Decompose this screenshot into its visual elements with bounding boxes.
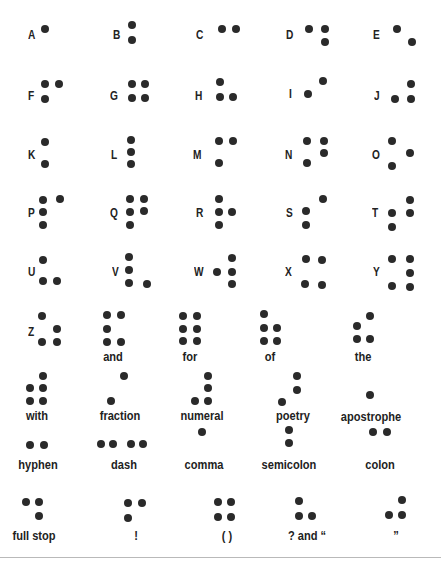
braille-label: M — [193, 148, 201, 162]
braille-dot-icon — [215, 137, 223, 145]
braille-dot-icon — [366, 391, 374, 399]
braille-label: H — [195, 89, 202, 103]
bottom-divider — [0, 557, 441, 558]
braille-label: comma — [185, 457, 224, 472]
braille-dot-icon — [229, 93, 237, 101]
braille-dot-icon — [228, 254, 236, 262]
braille-dot-icon — [127, 148, 135, 156]
braille-dot-icon — [215, 195, 223, 203]
braille-label: B — [113, 28, 120, 42]
braille-dot-icon — [303, 159, 311, 167]
braille-dot-icon — [393, 25, 401, 33]
braille-dot-icon — [53, 277, 61, 285]
braille-dot-icon — [40, 441, 48, 449]
braille-label: O — [372, 148, 380, 162]
braille-label: the — [355, 349, 372, 364]
braille-label: of — [265, 349, 275, 364]
braille-dot-icon — [107, 397, 115, 405]
braille-chart: ABCDEFGHIJKLMNOPQRSTUVWXYZandforofthewit… — [0, 0, 441, 574]
braille-dot-icon — [128, 94, 136, 102]
braille-dot-icon — [128, 36, 136, 44]
braille-label: L — [111, 148, 117, 162]
braille-dot-icon — [120, 372, 128, 380]
braille-dot-icon — [41, 138, 49, 146]
braille-dot-icon — [293, 372, 301, 380]
braille-label: numeral — [180, 408, 223, 423]
braille-dot-icon — [369, 428, 377, 436]
braille-dot-icon — [56, 195, 64, 203]
braille-label: poetry — [276, 408, 310, 423]
braille-dot-icon — [35, 512, 43, 520]
braille-dot-icon — [388, 223, 396, 231]
braille-label: ( ) — [222, 528, 232, 543]
braille-dot-icon — [398, 496, 406, 504]
braille-dot-icon — [35, 498, 43, 506]
braille-label: V — [112, 265, 119, 279]
braille-dot-icon — [406, 283, 414, 291]
braille-dot-icon — [124, 514, 132, 522]
braille-dot-icon — [39, 397, 47, 405]
braille-label: F — [28, 89, 34, 103]
braille-dot-icon — [229, 137, 237, 145]
braille-label: D — [286, 28, 293, 42]
braille-dot-icon — [103, 338, 111, 346]
braille-label: G — [110, 89, 118, 103]
braille-dot-icon — [304, 90, 312, 98]
braille-dot-icon — [41, 25, 49, 33]
braille-dot-icon — [273, 324, 281, 332]
braille-label: colon — [365, 457, 395, 472]
braille-label: ! — [134, 528, 138, 543]
braille-dot-icon — [141, 94, 149, 102]
braille-dot-icon — [204, 384, 212, 392]
braille-dot-icon — [125, 279, 133, 287]
braille-dot-icon — [193, 337, 201, 345]
braille-label: N — [285, 148, 292, 162]
braille-dot-icon — [260, 337, 268, 345]
braille-dot-icon — [408, 38, 416, 46]
braille-dot-icon — [260, 324, 268, 332]
braille-label: C — [196, 28, 203, 42]
braille-label: for — [183, 349, 198, 364]
braille-dot-icon — [295, 512, 303, 520]
braille-dot-icon — [127, 440, 135, 448]
braille-dot-icon — [273, 337, 281, 345]
braille-dot-icon — [139, 440, 147, 448]
braille-dot-icon — [391, 95, 399, 103]
braille-dot-icon — [388, 137, 396, 145]
braille-dot-icon — [406, 209, 414, 217]
braille-dot-icon — [302, 221, 310, 229]
braille-dot-icon — [320, 149, 328, 157]
braille-dot-icon — [383, 428, 391, 436]
braille-dot-icon — [103, 311, 111, 319]
braille-dot-icon — [319, 77, 327, 85]
braille-dot-icon — [216, 93, 224, 101]
braille-dot-icon — [125, 253, 133, 261]
braille-dot-icon — [41, 160, 49, 168]
braille-dot-icon — [38, 312, 46, 320]
braille-label: I — [289, 87, 292, 101]
braille-dot-icon — [228, 280, 236, 288]
braille-dot-icon — [228, 208, 236, 216]
braille-dot-icon — [398, 511, 406, 519]
braille-dot-icon — [26, 397, 34, 405]
braille-dot-icon — [406, 149, 414, 157]
braille-dot-icon — [260, 310, 268, 318]
braille-dot-icon — [39, 196, 47, 204]
braille-label: Y — [373, 265, 380, 279]
braille-dot-icon — [38, 338, 46, 346]
braille-label: with — [26, 408, 48, 423]
braille-dot-icon — [39, 256, 47, 264]
braille-dot-icon — [117, 311, 125, 319]
braille-dot-icon — [140, 207, 148, 215]
braille-label: S — [286, 206, 293, 220]
braille-dot-icon — [214, 498, 222, 506]
braille-label: J — [374, 89, 380, 103]
braille-dot-icon — [319, 195, 327, 203]
braille-dot-icon — [321, 25, 329, 33]
braille-dot-icon — [55, 80, 63, 88]
braille-label: A — [28, 28, 35, 42]
braille-label: dash — [111, 457, 137, 472]
braille-dot-icon — [407, 95, 415, 103]
braille-label: K — [28, 148, 35, 162]
braille-dot-icon — [388, 209, 396, 217]
